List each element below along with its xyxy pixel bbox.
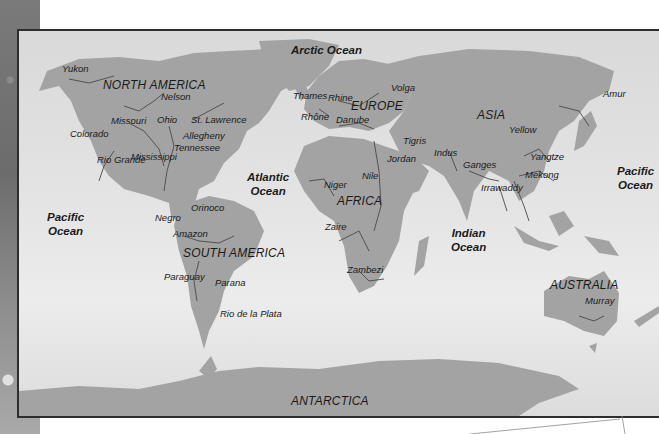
- atlantic-line2: Ocean: [247, 185, 289, 199]
- indian-ocean-label: Indian Ocean: [451, 227, 486, 255]
- river-tigris: Tigris: [403, 136, 426, 146]
- europe-label: EUROPE: [351, 100, 403, 112]
- river-yukon: Yukon: [62, 64, 89, 74]
- river-indus: Indus: [434, 148, 457, 158]
- river-amur: Amur: [603, 89, 626, 99]
- river-niger: Niger: [324, 180, 347, 190]
- indian-line1: Indian: [451, 227, 486, 241]
- river-missouri: Missouri: [111, 116, 146, 126]
- river-st-lawrence: St. Lawrence: [191, 115, 246, 125]
- river-ganges: Ganges: [463, 160, 496, 170]
- pacific-ocean-west-label: Pacific Ocean: [47, 211, 84, 239]
- river-amazon: Amazon: [173, 229, 208, 239]
- river-nile: Nile: [362, 171, 378, 181]
- australia-label: AUSTRALIA: [550, 279, 619, 291]
- river-orinoco: Orinoco: [191, 203, 224, 213]
- river-zaire: Zaire: [325, 222, 347, 232]
- pacific-west-line2: Ocean: [47, 225, 84, 239]
- arctic-ocean-label: Arctic Ocean: [291, 44, 362, 58]
- river-colorado: Colorado: [70, 129, 109, 139]
- antarctica-label: ANTARCTICA: [291, 395, 369, 407]
- asia-label: ASIA: [477, 109, 505, 121]
- river-paraguay: Paraguay: [164, 272, 205, 282]
- pacific-west-line1: Pacific: [47, 211, 84, 225]
- atlantic-line1: Atlantic: [247, 171, 289, 185]
- river-allegheny: Allegheny: [183, 131, 225, 141]
- river-ohio: Ohio: [157, 115, 177, 125]
- pacific-east-line1: Pacific: [617, 165, 654, 179]
- atlantic-ocean-label: Atlantic Ocean: [247, 171, 289, 199]
- river-rhine: Rhine: [328, 93, 353, 103]
- river-thames: Thames: [293, 91, 327, 101]
- river-mekong: Mekong: [525, 170, 559, 180]
- river-volga: Volga: [391, 83, 415, 93]
- river-irrawaddy: Irrawaddy: [481, 183, 523, 193]
- river-parana: Parana: [215, 278, 246, 288]
- pacific-ocean-east-label: Pacific Ocean: [617, 165, 654, 193]
- pacific-east-line2: Ocean: [617, 179, 654, 193]
- page-edge-lines: [400, 416, 640, 434]
- south-america-label: SOUTH AMERICA: [183, 247, 285, 259]
- river-rio-de-la-plata: Rio de la Plata: [220, 309, 282, 319]
- world-map: Arctic Ocean Atlantic Ocean Pacific Ocea…: [17, 29, 659, 418]
- river-yangtze: Yangtze: [530, 152, 564, 162]
- north-america-label: NORTH AMERICA: [103, 79, 206, 91]
- africa-label: AFRICA: [337, 195, 382, 207]
- river-zambezi: Zambezi: [347, 265, 383, 275]
- river-nelson: Nelson: [161, 92, 191, 102]
- river-rio-grande: Rio Grande: [97, 155, 127, 164]
- river-tennessee: Tennessee: [174, 143, 220, 153]
- river-yellow: Yellow: [509, 125, 536, 135]
- river-mississippi: Mississippi: [131, 152, 177, 162]
- indian-line2: Ocean: [451, 241, 486, 255]
- river-jordan: Jordan: [387, 154, 416, 164]
- river-danube: Danube: [336, 115, 369, 125]
- river-murray: Murray: [585, 296, 615, 306]
- river-rhone: Rhône: [301, 112, 329, 122]
- river-negro: Negro: [155, 213, 181, 223]
